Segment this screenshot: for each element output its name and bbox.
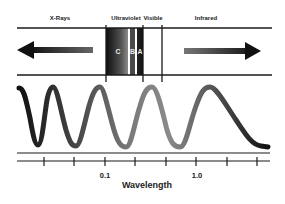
tick-label-0-1: 0.1 <box>100 171 110 180</box>
arrow-right-icon <box>184 42 261 60</box>
label-ultraviolet: Ultraviolet <box>111 15 140 21</box>
label-visible: Visible <box>143 15 163 21</box>
wavelength-axis <box>17 153 270 166</box>
label-infrared: Infrared <box>195 15 218 21</box>
axis-title: Wavelength <box>122 180 172 190</box>
region-labels: X-Rays Ultraviolet Visible Infrared <box>50 15 218 21</box>
label-x-rays: X-Rays <box>50 15 71 21</box>
uv-a-label: A <box>137 48 142 55</box>
uv-c-label: C <box>115 48 120 55</box>
uv-b-label: B <box>130 48 135 55</box>
spectrum-diagram: X-Rays Ultraviolet Visible Infrared C B … <box>0 0 285 204</box>
wave-curve <box>19 87 268 147</box>
uv-block: C B A <box>106 28 143 75</box>
tick-label-1-0: 1.0 <box>192 171 202 180</box>
arrow-left-icon <box>17 41 93 59</box>
